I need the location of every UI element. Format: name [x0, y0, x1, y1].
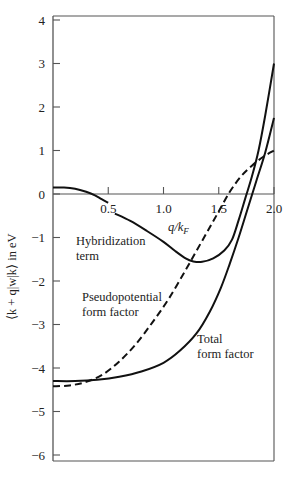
chart-canvas: 43210−1−2−3−4−5−6 0.51.01.52.0 Hybridiza…: [0, 0, 296, 477]
y-tick-label: 0: [39, 187, 46, 202]
total-label-line2: form factor: [197, 347, 254, 361]
x-tick-label: 1.5: [211, 201, 227, 216]
y-tick-label: −2: [31, 274, 45, 289]
x-axis-label: q/kF: [168, 220, 189, 236]
x-axis-ticks: 0.51.01.52.0: [100, 187, 282, 216]
pseudopotential-label-line2: form factor: [82, 305, 139, 319]
y-tick-label: 2: [39, 100, 46, 115]
plot-curves: [53, 64, 274, 387]
hybridization-label-line1: Hybridization: [76, 234, 146, 248]
y-tick-label: 1: [39, 143, 46, 158]
curve-labels: Hybridization term Pseudopotential form …: [76, 220, 254, 361]
total-label-line1: Total: [197, 332, 223, 346]
pseudopotential-label-line1: Pseudopotential: [82, 290, 162, 304]
y-tick-label: −4: [31, 361, 45, 376]
x-tick-label: 0.5: [100, 201, 116, 216]
y-axis-label: ⟨k + q|w|k⟩ in eV: [4, 233, 20, 320]
y-tick-label: 4: [39, 13, 46, 28]
y-tick-label: 3: [39, 56, 46, 71]
x-tick-label: 2.0: [266, 201, 282, 216]
x-tick-label: 1.0: [155, 201, 171, 216]
hybridization-term-cont-curve: [115, 64, 274, 263]
y-tick-label: −5: [31, 404, 45, 419]
y-axis-ticks: 43210−1−2−3−4−5−6: [31, 13, 60, 463]
y-tick-label: −1: [31, 230, 45, 245]
y-tick-label: −6: [31, 448, 45, 463]
y-tick-label: −3: [31, 317, 45, 332]
hybridization-label-line2: term: [76, 249, 99, 263]
